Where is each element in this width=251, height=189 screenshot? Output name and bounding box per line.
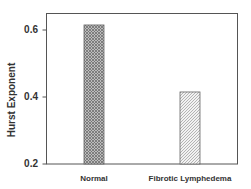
y-tick-label: 0.4 (14, 91, 38, 102)
x-category-label: Fibrotic Lymphedema (149, 174, 232, 183)
bar-normal (84, 25, 104, 164)
x-category-label: Normal (80, 174, 108, 183)
bar-fibrotic-lymphedema (180, 92, 200, 164)
bars (84, 25, 200, 164)
y-axis-ticks (43, 30, 47, 164)
plot-frame (47, 14, 238, 165)
y-tick-label: 0.6 (14, 24, 38, 35)
y-tick-label: 0.2 (14, 158, 38, 169)
bar-chart: Hurst Exponent 0.20.40.6 NormalFibrotic … (0, 0, 251, 189)
